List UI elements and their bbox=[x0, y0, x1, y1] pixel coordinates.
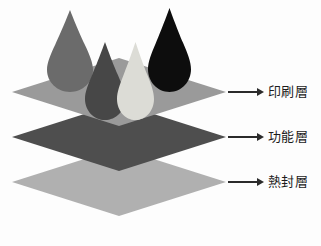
droplet-4-black bbox=[148, 8, 191, 92]
droplet-3-light-gray bbox=[117, 42, 154, 120]
arrow-right-icon bbox=[228, 177, 264, 187]
arrow-right-icon bbox=[228, 87, 264, 97]
callout-printing: 印刷層 bbox=[228, 84, 321, 100]
heat-seal-layer-label: 熱封層 bbox=[268, 174, 308, 190]
functional-layer-label: 功能層 bbox=[268, 129, 308, 145]
callout-heatseal: 熱封層 bbox=[228, 174, 321, 190]
layer-stack-illustration bbox=[0, 0, 321, 246]
layered-film-diagram: 印刷層 功能層 熱封層 bbox=[0, 0, 321, 246]
droplet-1-medium-gray bbox=[47, 10, 93, 92]
printing-layer-label: 印刷層 bbox=[268, 84, 308, 100]
arrow-right-icon bbox=[228, 132, 264, 142]
callout-functional: 功能層 bbox=[228, 129, 321, 145]
